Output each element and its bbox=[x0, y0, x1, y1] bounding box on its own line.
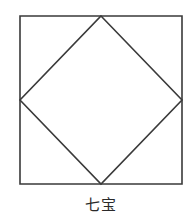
diagram-caption: 七宝 bbox=[0, 196, 185, 214]
inscribed-diamond bbox=[20, 16, 182, 184]
outer-square bbox=[20, 16, 182, 184]
pattern-diagram bbox=[0, 0, 185, 219]
